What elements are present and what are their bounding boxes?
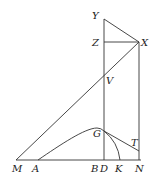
label-t: T (131, 137, 139, 148)
label-n: N (134, 163, 145, 174)
geometry-diagram: Y Z X V G T M A B D K N (0, 0, 158, 188)
label-z: Z (91, 37, 100, 48)
label-x: X (140, 37, 149, 48)
label-g: G (93, 128, 101, 139)
segment-yx (104, 19, 139, 42)
label-y: Y (92, 10, 100, 21)
segment-mx (16, 42, 139, 160)
label-v: V (106, 75, 115, 86)
label-b: B (90, 163, 98, 174)
label-d: D (99, 163, 108, 174)
label-k: K (114, 163, 123, 174)
label-m: M (11, 163, 23, 174)
label-a: A (31, 163, 39, 174)
